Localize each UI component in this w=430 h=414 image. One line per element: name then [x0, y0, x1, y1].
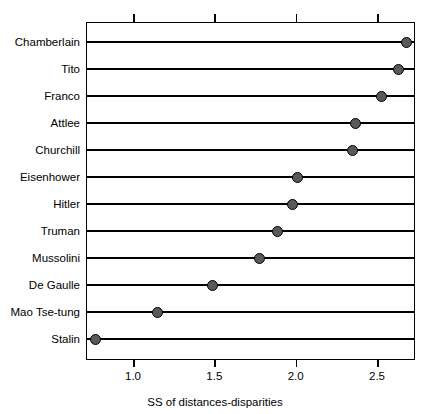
x-axis-tick	[296, 360, 298, 367]
plot-row: Mao Tse-tung	[0, 304, 430, 320]
x-axis-tick-label: 1.5	[206, 370, 222, 382]
x-axis-tick	[377, 360, 379, 367]
data-point-marker	[90, 334, 101, 345]
top-axis-tick	[377, 14, 379, 22]
category-label: Stalin	[51, 331, 80, 347]
row-connector-line	[86, 230, 415, 232]
data-point-marker	[347, 145, 358, 156]
plot-row: De Gaulle	[0, 277, 430, 293]
plot-row: Mussolini	[0, 250, 430, 266]
plot-row: Attlee	[0, 115, 430, 131]
plot-row: Tito	[0, 61, 430, 77]
row-connector-line	[86, 176, 415, 178]
plot-row: Eisenhower	[0, 169, 430, 185]
category-label: Churchill	[35, 142, 80, 158]
plot-row: Churchill	[0, 142, 430, 158]
x-axis-tick-label: 1.0	[125, 370, 141, 382]
data-point-marker	[376, 91, 387, 102]
row-connector-line	[86, 338, 415, 340]
category-label: Franco	[44, 88, 80, 104]
row-connector-line	[86, 41, 415, 43]
dot-plot-chart: ChamberlainTitoFrancoAttleeChurchillEise…	[0, 0, 430, 414]
category-label: Mussolini	[32, 250, 80, 266]
row-connector-line	[86, 257, 415, 259]
plot-row: Truman	[0, 223, 430, 239]
category-label: Mao Tse-tung	[11, 304, 80, 320]
data-point-marker	[207, 280, 218, 291]
top-axis-tick	[133, 14, 135, 22]
data-point-marker	[401, 37, 412, 48]
category-label: Hitler	[53, 196, 80, 212]
x-axis-title: SS of distances-disparities	[0, 396, 430, 408]
x-axis-tick-label: 2.0	[288, 370, 304, 382]
data-point-marker	[393, 64, 404, 75]
plot-row: Hitler	[0, 196, 430, 212]
plot-row: Chamberlain	[0, 34, 430, 50]
category-label: Eisenhower	[20, 169, 80, 185]
plot-row: Franco	[0, 88, 430, 104]
row-connector-line	[86, 203, 415, 205]
row-connector-line	[86, 122, 415, 124]
data-point-marker	[152, 307, 163, 318]
data-point-marker	[292, 172, 303, 183]
data-point-marker	[272, 226, 283, 237]
row-connector-line	[86, 311, 415, 313]
row-connector-line	[86, 149, 415, 151]
row-connector-line	[86, 68, 415, 70]
x-axis-tick	[133, 360, 135, 367]
category-label: Truman	[41, 223, 80, 239]
data-point-marker	[254, 253, 265, 264]
category-label: Chamberlain	[15, 34, 80, 50]
plot-row: Stalin	[0, 331, 430, 347]
category-label: Tito	[61, 61, 80, 77]
x-axis-tick	[214, 360, 216, 367]
x-axis-tick-label: 2.5	[369, 370, 385, 382]
row-connector-line	[86, 284, 415, 286]
data-point-marker	[350, 118, 361, 129]
category-label: Attlee	[51, 115, 80, 131]
row-connector-line	[86, 95, 415, 97]
data-point-marker	[287, 199, 298, 210]
top-axis-tick	[296, 14, 298, 22]
category-label: De Gaulle	[29, 277, 80, 293]
top-axis-tick	[214, 14, 216, 22]
